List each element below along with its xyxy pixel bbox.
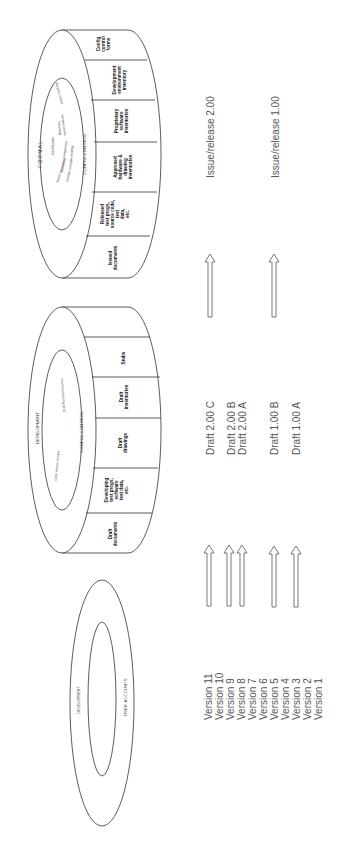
arrow-up-icon [204, 545, 214, 606]
arrow-up-icon [291, 546, 301, 607]
version-label: Version 3 [291, 678, 302, 720]
draft-label: Draft 2.00 A [237, 402, 248, 455]
development-config-cylinder [28, 307, 161, 553]
version-label: Version 8 [236, 678, 247, 720]
version-labels: Version 11 Version 10 Version 9 Version … [203, 672, 324, 720]
arrow-up-icon [269, 254, 279, 317]
version-label: Version 4 [280, 678, 291, 720]
release-2-label: Issue/release 2.00 [205, 96, 216, 178]
draft-label: Draft 1.00 A [291, 402, 302, 455]
arrow-up-icon [224, 545, 234, 606]
version-label: Version 10 [214, 672, 225, 720]
draft-arrows [204, 545, 301, 607]
cell-stubs: Stubs [121, 351, 126, 364]
draft-label: Draft 1.00 B [269, 401, 280, 455]
inner-item: Identification [51, 137, 55, 155]
formal-label: FORMAL [37, 140, 43, 168]
formal-band-label: CONFIG CONTROL [82, 133, 87, 175]
formal-config-cylinder [28, 30, 161, 278]
version-label: Version 9 [225, 678, 236, 720]
release-arrows [205, 254, 279, 317]
version-label: Version 11 [203, 673, 214, 720]
user-accounts-label: USER ACCOUNTS [124, 678, 128, 716]
version-label: Version 2 [302, 678, 313, 720]
arrow-up-icon [269, 546, 279, 607]
draft-label: Draft 2.00 C [205, 401, 216, 455]
user-ring-development-label: DEVELOPMENT [77, 686, 81, 714]
config-management-diagram: FORMAL CONFIG CONTROL Status accounting … [0, 0, 353, 853]
cell-proprietary-software: Proprietarysoftwareinventories [114, 108, 129, 133]
development-band-label: CONFIG CONTROL [79, 411, 84, 453]
version-label: Version 1 [313, 678, 324, 720]
development-label: DEVELOPMENT [35, 412, 40, 444]
version-label: Version 7 [247, 678, 258, 720]
arrow-up-icon [237, 545, 247, 606]
release-1-label: Issue/release 1.00 [270, 96, 281, 178]
draft-label: Draft 2.00 B [226, 401, 237, 455]
cell-config-control-forms: Configcontrolforms [96, 36, 111, 52]
arrow-up-icon [205, 254, 215, 317]
version-label: Version 6 [258, 678, 269, 720]
version-label: Version 5 [269, 678, 280, 720]
draft-labels: Draft 2.00 C Draft 2.00 B Draft 2.00 A D… [205, 401, 302, 455]
